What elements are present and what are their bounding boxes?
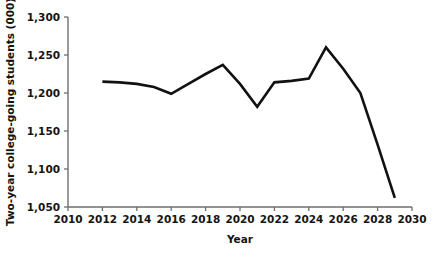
x-tick-group: 2010201220142016201820202022202420262028… [53,207,426,225]
chart-figure: 1,0501,1001,1501,2001,2501,300 201020122… [0,0,436,259]
y-axis-title: Two-year college-going students (000) [4,0,16,226]
x-axis-title: Year [226,233,254,245]
x-tick-label: 2012 [88,213,117,225]
x-tick-label: 2030 [397,213,426,225]
line-chart: 1,0501,1001,1501,2001,2501,300 201020122… [0,0,436,259]
y-tick-label: 1,200 [27,87,60,99]
y-tick-label: 1,250 [27,49,60,61]
x-tick-label: 2028 [363,213,392,225]
x-tick-label: 2022 [260,213,289,225]
y-tick-label: 1,050 [27,201,60,213]
x-tick-label: 2014 [122,213,151,225]
x-tick-label: 2016 [157,213,186,225]
x-tick-label: 2010 [53,213,82,225]
y-tick-group: 1,0501,1001,1501,2001,2501,300 [27,11,68,213]
x-tick-label: 2026 [329,213,358,225]
x-tick-label: 2018 [191,213,220,225]
y-tick-label: 1,100 [27,163,60,175]
x-tick-label: 2020 [225,213,254,225]
data-series-line [102,47,394,197]
y-tick-label: 1,150 [27,125,60,137]
y-tick-label: 1,300 [27,11,60,23]
x-tick-label: 2024 [294,213,323,225]
